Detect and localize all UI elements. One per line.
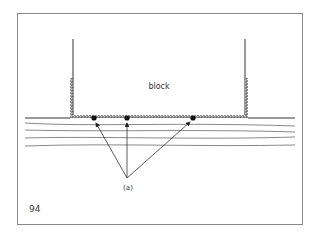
hatch-right bbox=[245, 78, 248, 118]
hatch-left bbox=[70, 78, 73, 118]
grain-line bbox=[25, 123, 295, 126]
contact-point bbox=[124, 115, 129, 120]
figure-number: 94 bbox=[29, 204, 41, 214]
pointer-label: (a) bbox=[123, 184, 133, 192]
diagram: block (a) 94 bbox=[0, 0, 316, 235]
contact-point bbox=[190, 115, 195, 120]
arrow bbox=[96, 123, 127, 178]
contact-point bbox=[91, 115, 96, 120]
block-label: block bbox=[148, 82, 170, 91]
grain-line bbox=[25, 137, 295, 138]
grain-line bbox=[25, 130, 295, 132]
figure-frame bbox=[18, 14, 303, 225]
hatch-bottom bbox=[70, 115, 248, 118]
grain-line bbox=[25, 145, 295, 146]
